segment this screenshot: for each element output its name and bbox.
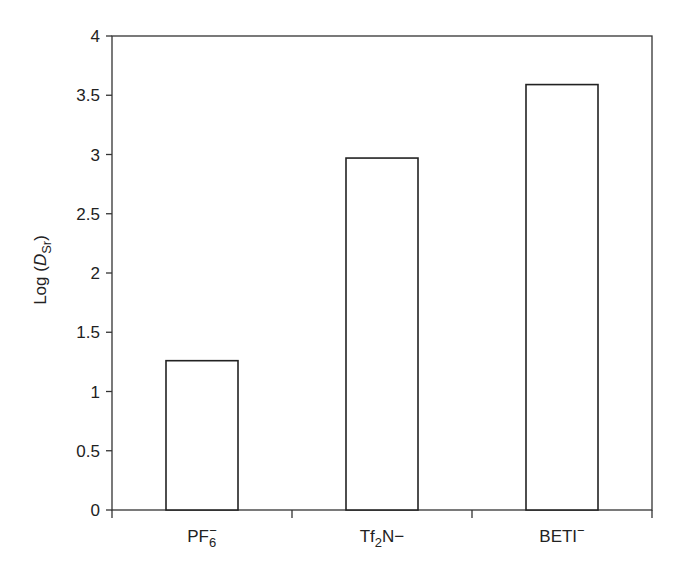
y-tick-label: 2.5 (76, 205, 100, 224)
y-tick-label: 1 (91, 383, 100, 402)
y-axis-title: Log (DSr) (31, 235, 54, 305)
x-axis-ticks (112, 510, 652, 518)
bars (166, 85, 598, 510)
y-tick-label: 3 (91, 146, 100, 165)
y-tick-label: 0.5 (76, 442, 100, 461)
y-tick-label: 0 (91, 501, 100, 520)
y-tick-label: 4 (91, 27, 100, 46)
y-axis-ticks: 00.511.522.533.54 (76, 27, 112, 520)
bar (346, 158, 418, 510)
bar-chart: 00.511.522.533.54 PF6−Tf2N−BETI− Log (DS… (0, 0, 685, 575)
x-axis-labels: PF6−Tf2N−BETI− (187, 523, 584, 550)
x-category-label: PF6− (187, 523, 217, 550)
y-tick-label: 2 (91, 264, 100, 283)
x-category-label: Tf2N− (360, 527, 405, 550)
y-tick-label: 1.5 (76, 323, 100, 342)
y-axis-label: Log (DSr) (31, 235, 54, 305)
bar (166, 361, 238, 510)
bar (526, 85, 598, 510)
x-category-label: BETI− (539, 523, 584, 546)
y-tick-label: 3.5 (76, 86, 100, 105)
